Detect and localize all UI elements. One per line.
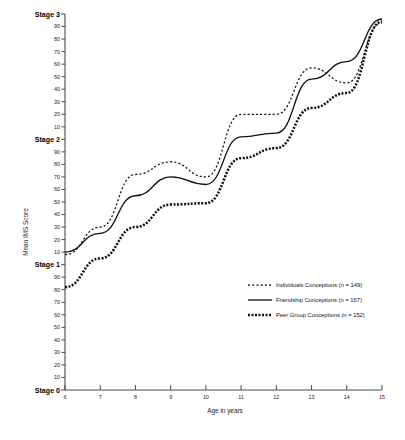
y-tick-label-190: 90 xyxy=(54,149,60,155)
imS-score-line-chart: Stage 0102030405060708090Stage 110203040… xyxy=(0,0,405,440)
series-line-individuals-conceptions xyxy=(65,23,382,255)
y-tick-label-140: 40 xyxy=(54,211,60,217)
y-tick-label-160: 60 xyxy=(54,186,60,192)
x-tick-label-10: 10 xyxy=(203,394,209,400)
x-tick-label-14: 14 xyxy=(344,394,350,400)
x-tick-label-13: 13 xyxy=(309,394,315,400)
x-tick-label-9: 9 xyxy=(169,394,172,400)
y-tick-stage-2: Stage 2 xyxy=(35,136,60,144)
y-tick-stage-1: Stage 1 xyxy=(35,261,60,269)
y-tick-label-80: 80 xyxy=(54,287,60,293)
y-tick-label-220: 20 xyxy=(54,111,60,117)
y-tick-label-130: 30 xyxy=(54,224,60,230)
y-tick-stage-0: Stage 0 xyxy=(35,387,60,395)
y-tick-label-90: 90 xyxy=(54,274,60,280)
y-tick-label-10: 10 xyxy=(54,374,60,380)
x-tick-label-7: 7 xyxy=(99,394,102,400)
series-line-peer-group-conceptions xyxy=(65,22,382,288)
x-axis: 6789101112131415 xyxy=(64,385,386,400)
y-tick-label-120: 20 xyxy=(54,237,60,243)
y-tick-label-230: 30 xyxy=(54,99,60,105)
y-tick-label-290: 90 xyxy=(54,23,60,29)
series-line-friendship-conceptions xyxy=(65,19,382,252)
y-tick-label-250: 50 xyxy=(54,74,60,80)
legend-label-peer-group: Peer Group Conceptions (n = 152) xyxy=(276,312,365,318)
y-tick-label-180: 80 xyxy=(54,161,60,167)
y-tick-label-20: 20 xyxy=(54,362,60,368)
y-tick-label-60: 60 xyxy=(54,312,60,318)
y-tick-label-40: 40 xyxy=(54,337,60,343)
x-tick-label-8: 8 xyxy=(134,394,137,400)
y-axis-title: Mean IMS Score xyxy=(22,208,29,256)
x-axis-title: Age in years xyxy=(207,407,243,415)
legend-label-individuals: Individuals Conceptions (n = 149) xyxy=(276,282,362,288)
y-tick-label-30: 30 xyxy=(54,349,60,355)
y-tick-label-270: 70 xyxy=(54,49,60,55)
y-axis-ticks: Stage 0102030405060708090Stage 110203040… xyxy=(35,11,65,395)
y-tick-label-240: 40 xyxy=(54,86,60,92)
chart-container: Stage 0102030405060708090Stage 110203040… xyxy=(0,0,405,440)
y-tick-label-280: 80 xyxy=(54,36,60,42)
y-tick-label-150: 50 xyxy=(54,199,60,205)
data-series-group xyxy=(65,19,382,287)
y-tick-stage-3: Stage 3 xyxy=(35,11,60,19)
x-tick-label-6: 6 xyxy=(64,394,67,400)
legend-label-friendship: Friendship Conceptions (n = 157) xyxy=(276,297,362,303)
x-tick-label-15: 15 xyxy=(379,394,385,400)
y-tick-label-50: 50 xyxy=(54,324,60,330)
x-tick-label-11: 11 xyxy=(238,394,244,400)
y-tick-label-70: 70 xyxy=(54,299,60,305)
y-axis: Stage 0102030405060708090Stage 110203040… xyxy=(35,11,65,395)
y-tick-label-170: 70 xyxy=(54,174,60,180)
y-tick-label-210: 10 xyxy=(54,124,60,130)
x-tick-label-12: 12 xyxy=(273,394,279,400)
y-tick-label-110: 10 xyxy=(54,249,60,255)
legend: Individuals Conceptions (n = 149) Friend… xyxy=(248,282,365,318)
x-axis-ticks: 6789101112131415 xyxy=(64,385,386,400)
y-tick-label-260: 60 xyxy=(54,61,60,67)
